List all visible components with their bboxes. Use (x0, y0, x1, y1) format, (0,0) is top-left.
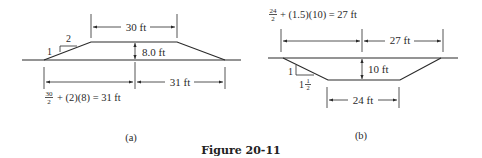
formula-rest: + (2)(8) = 31 ft (57, 92, 121, 104)
slope-rise-label: 1 (47, 46, 52, 57)
top-width-label: 30 ft (126, 21, 146, 33)
formula-denominator: 2 (47, 98, 51, 106)
formula-a: 30 2 + (2)(8) = 31 ft (45, 90, 121, 106)
slope-run-frac-den: 2 (306, 84, 309, 91)
slope-rise-label: 1 (288, 66, 293, 77)
formula-denominator: 2 (271, 15, 275, 23)
formula-numerator: 30 (46, 90, 54, 98)
depth-label: 10 ft (368, 63, 388, 75)
slope-run-label: 1 1 2 (299, 77, 311, 91)
slope-run-whole: 1 (299, 79, 304, 90)
half-base-label: 31 ft (170, 76, 190, 88)
formula-numerator: 24 (270, 7, 278, 15)
embankment-outline (44, 42, 225, 60)
formula-rest: + (1.5)(10) = 27 ft (280, 9, 357, 21)
slope-run-label: 2 (66, 33, 71, 44)
panel-b: 24 2 + (1.5)(10) = 27 ft 27 ft 10 ft 1 1… (268, 7, 458, 142)
panel-a: 30 ft 8.0 ft 1 2 31 ft 30 2 + (2)(8) = 3… (22, 14, 241, 144)
height-label: 8.0 ft (142, 46, 165, 58)
figure-canvas: 30 ft 8.0 ft 1 2 31 ft 30 2 + (2)(8) = 3… (0, 0, 482, 158)
panel-label: (a) (125, 132, 137, 144)
bottom-width-label: 24 ft (353, 94, 373, 106)
formula-b: 24 2 + (1.5)(10) = 27 ft (269, 7, 357, 23)
half-top-label: 27 ft (390, 34, 410, 46)
figure-caption: Figure 20-11 (201, 144, 280, 157)
panel-label: (b) (355, 130, 368, 142)
slope-run-frac-num: 1 (306, 77, 309, 84)
slope-triangle (296, 65, 314, 75)
